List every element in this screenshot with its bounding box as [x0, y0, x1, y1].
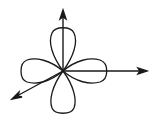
- orbital-diagram: [0, 0, 155, 122]
- arrowhead-up-icon: [60, 10, 66, 19]
- arrowhead-right-icon: [138, 68, 147, 74]
- lobe-left: [21, 59, 63, 83]
- arrowhead-down-left-icon: [12, 92, 22, 99]
